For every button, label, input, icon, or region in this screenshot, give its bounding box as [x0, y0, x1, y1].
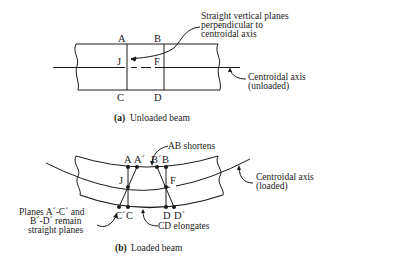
loaded-point-a-prime-label: A´	[134, 154, 145, 165]
planes-remain-leader	[97, 216, 116, 227]
loaded-point-a-label: A	[124, 154, 132, 165]
ab-shortens-note: AB shortens	[168, 141, 216, 151]
point-j-label: J	[117, 56, 121, 67]
caption-b-text: Loaded beam	[131, 243, 183, 253]
loaded-right-break	[217, 156, 223, 195]
planes-leader-arrow	[131, 27, 200, 59]
loaded-point-j-label: J	[119, 175, 123, 186]
point-f-label: F	[154, 56, 160, 67]
dot-a	[126, 165, 130, 169]
loaded-point-f-label: F	[170, 175, 176, 186]
point-a-label: A	[118, 33, 126, 44]
point-c-label: C	[117, 92, 124, 103]
dot-f	[164, 185, 168, 189]
loaded-beam-points	[117, 165, 176, 209]
point-d-label: D	[154, 92, 162, 103]
caption-a-tag: (a)	[114, 113, 125, 124]
axis-leader-arrow	[230, 69, 246, 79]
axis-loaded-leader	[239, 168, 253, 183]
loaded-point-c-prime-label: C´	[115, 210, 126, 221]
axis-unloaded-line2: (unloaded)	[248, 81, 289, 92]
dot-d-prime	[172, 205, 176, 209]
dot-b	[164, 165, 168, 169]
loaded-bottom-edge	[80, 195, 223, 208]
loaded-left-break	[75, 156, 80, 195]
loaded-point-b-label: B	[162, 154, 169, 165]
loaded-point-d-label: D	[163, 210, 171, 221]
dot-c-prime	[117, 205, 121, 209]
beam-bending-diagram: A B J F C D Straight vertical planes per…	[0, 0, 413, 271]
caption-b-tag: (b)	[115, 243, 127, 254]
dot-a-prime	[135, 165, 139, 169]
caption-a-text: Unloaded beam	[130, 113, 190, 123]
dot-d	[164, 205, 168, 209]
dot-c	[126, 205, 130, 209]
planes-remain-line3: straight planes	[28, 225, 83, 235]
dot-j	[126, 185, 130, 189]
point-b-label: B	[154, 33, 161, 44]
axis-loaded-line2: (loaded)	[256, 181, 288, 192]
cd-elongates-leader	[143, 211, 158, 226]
cd-elongates-note: CD elongates	[158, 221, 210, 231]
dot-b-prime	[155, 165, 159, 169]
loaded-top-edge	[76, 156, 218, 167]
loaded-point-d-prime-label: D´	[174, 210, 185, 221]
arrowhead-icon	[131, 57, 136, 61]
loaded-point-b-prime-label: B´	[151, 154, 162, 165]
loaded-point-c-label: C	[126, 210, 133, 221]
planes-note-line3: centroidal axis	[201, 29, 257, 39]
